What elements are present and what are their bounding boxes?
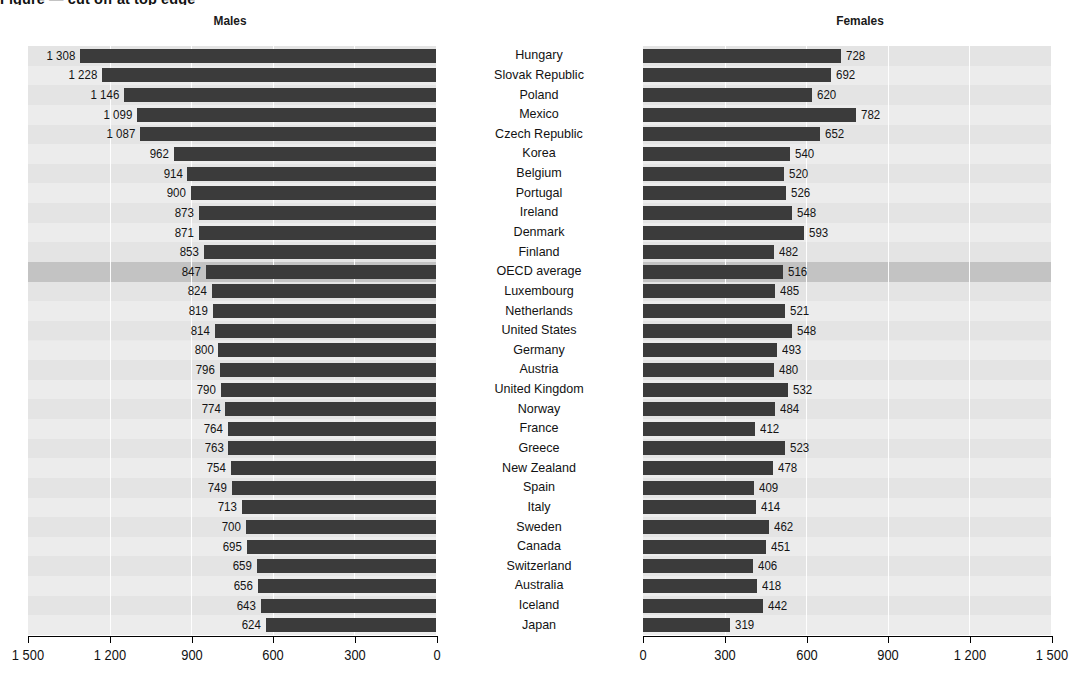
bar-value-label: 774 <box>201 402 220 416</box>
bar[interactable] <box>225 402 436 416</box>
bar-value-label: 462 <box>774 520 793 534</box>
bar[interactable] <box>102 68 436 82</box>
bar[interactable] <box>643 147 790 161</box>
axis-tick-label: 1 200 <box>73 647 147 663</box>
bar[interactable] <box>246 520 436 534</box>
bar-value-label: 485 <box>780 284 799 298</box>
bar-value-label: 480 <box>779 363 798 377</box>
bar[interactable] <box>221 383 436 397</box>
bar-value-label: 652 <box>825 127 844 141</box>
bar[interactable] <box>215 324 436 338</box>
bar[interactable] <box>213 304 436 318</box>
axis-tick <box>807 636 808 643</box>
bar[interactable] <box>228 422 436 436</box>
bar[interactable] <box>643 127 820 141</box>
bar-value-label: 319 <box>735 618 754 632</box>
bar[interactable] <box>643 383 788 397</box>
bar[interactable] <box>199 206 436 220</box>
axis-tick <box>970 636 971 643</box>
bar[interactable] <box>247 540 436 554</box>
bar[interactable] <box>204 245 436 259</box>
panel-header-males: Males <box>142 13 318 28</box>
bar[interactable] <box>228 441 436 455</box>
bar-value-label: 624 <box>242 618 261 632</box>
bar[interactable] <box>643 108 856 122</box>
bar[interactable] <box>643 88 812 102</box>
bar[interactable] <box>140 127 436 141</box>
bar-value-label: 853 <box>180 245 199 259</box>
bar[interactable] <box>643 481 754 495</box>
axis-tick <box>355 636 356 643</box>
bar[interactable] <box>199 226 436 240</box>
bar[interactable] <box>643 186 786 200</box>
category-label-column: HungarySlovak RepublicPolandMexicoCzech … <box>440 46 638 635</box>
bar[interactable] <box>643 226 804 240</box>
bar[interactable] <box>258 579 436 593</box>
axis-tick <box>725 636 726 643</box>
bar[interactable] <box>137 108 436 122</box>
gridline <box>969 46 970 635</box>
category-label: Sweden <box>445 519 633 535</box>
bar[interactable] <box>220 363 437 377</box>
bar[interactable] <box>191 186 436 200</box>
bar[interactable] <box>643 206 792 220</box>
category-label: Norway <box>445 401 633 417</box>
bar[interactable] <box>643 49 841 63</box>
bar[interactable] <box>80 49 436 63</box>
bar[interactable] <box>643 618 730 632</box>
bar-value-label: 692 <box>836 68 855 82</box>
bar-value-label: 414 <box>761 500 780 514</box>
bar[interactable] <box>232 481 436 495</box>
bar-value-label: 442 <box>768 599 787 613</box>
category-label: United States <box>445 322 633 338</box>
bar[interactable] <box>218 343 436 357</box>
bar-value-label: 412 <box>760 422 779 436</box>
bar[interactable] <box>643 363 774 377</box>
category-label: France <box>445 420 633 436</box>
bar[interactable] <box>643 68 831 82</box>
category-label: Switzerland <box>445 558 633 574</box>
bar-value-label: 656 <box>233 579 252 593</box>
bar[interactable] <box>231 461 436 475</box>
bar[interactable] <box>643 540 766 554</box>
bar[interactable] <box>643 461 773 475</box>
category-label: Slovak Republic <box>445 67 633 83</box>
axis-tick <box>1052 636 1053 643</box>
bar[interactable] <box>124 88 436 102</box>
bar[interactable] <box>242 500 436 514</box>
bar[interactable] <box>643 304 785 318</box>
bar[interactable] <box>206 265 436 279</box>
axis-tick <box>28 636 29 643</box>
bar[interactable] <box>643 245 774 259</box>
category-label: Germany <box>445 342 633 358</box>
bar[interactable] <box>643 559 753 573</box>
axis-tick-label: 1 200 <box>933 647 1007 663</box>
bar[interactable] <box>643 500 756 514</box>
axis-tick <box>192 636 193 643</box>
bar[interactable] <box>643 167 784 181</box>
bar-value-label: 695 <box>223 540 242 554</box>
bar[interactable] <box>212 284 436 298</box>
bar-value-label: 406 <box>758 559 777 573</box>
category-label: Portugal <box>445 185 633 201</box>
bar[interactable] <box>643 265 783 279</box>
bar-value-label: 1 087 <box>107 127 136 141</box>
bar[interactable] <box>643 402 775 416</box>
bar[interactable] <box>257 559 436 573</box>
bar[interactable] <box>174 147 436 161</box>
bar[interactable] <box>643 284 775 298</box>
bar[interactable] <box>187 167 436 181</box>
bar[interactable] <box>643 343 777 357</box>
bar-value-label: 873 <box>174 206 193 220</box>
bar[interactable] <box>643 441 785 455</box>
bar-value-label: 540 <box>795 147 814 161</box>
axis-tick-label: 300 <box>318 647 392 663</box>
bar[interactable] <box>643 422 755 436</box>
bar[interactable] <box>266 618 436 632</box>
bar[interactable] <box>643 579 757 593</box>
bar[interactable] <box>643 520 769 534</box>
bar-value-label: 493 <box>782 343 801 357</box>
bar[interactable] <box>261 599 436 613</box>
bar[interactable] <box>643 324 792 338</box>
bar[interactable] <box>643 599 763 613</box>
